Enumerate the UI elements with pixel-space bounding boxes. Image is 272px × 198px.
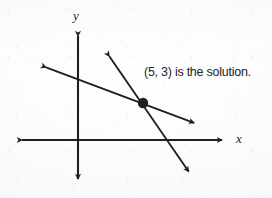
- intersection-point-marker: [138, 98, 148, 108]
- solution-annotation-text: (5, 3) is the solution.: [144, 66, 251, 79]
- y-axis-label: y: [73, 9, 79, 22]
- figure-canvas: y x (5, 3) is the solution.: [0, 0, 272, 198]
- x-axis-label: x: [236, 132, 242, 145]
- axes-group: [22, 36, 222, 179]
- coordinate-plane-graphic: [0, 0, 272, 198]
